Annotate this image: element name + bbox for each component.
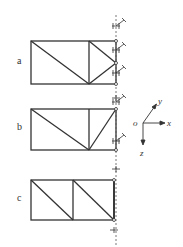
coordinate-axes: [141, 104, 165, 145]
truss-b: [31, 109, 116, 150]
axis-z-label: z: [139, 148, 144, 158]
support-icons: [110, 18, 126, 233]
truss-diagram: a b c o x y z: [0, 0, 183, 247]
label-a: a: [17, 55, 22, 66]
axis-x-label: x: [166, 118, 171, 128]
label-b: b: [17, 121, 22, 132]
axis-y-label: y: [157, 96, 162, 106]
truss-a: [31, 41, 116, 84]
truss-c: [31, 180, 114, 220]
axis-origin-label: o: [133, 118, 138, 128]
label-c: c: [17, 192, 22, 203]
